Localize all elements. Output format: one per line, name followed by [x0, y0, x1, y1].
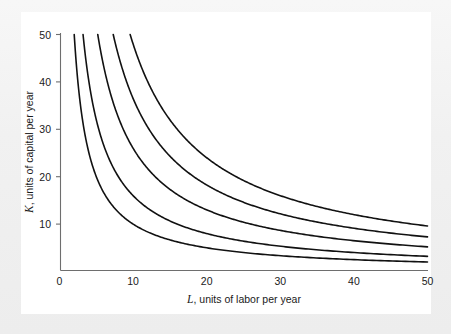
- isoquant-chart: 50 40 30 20 10 0 10 20 30 40 50 L, units…: [0, 0, 451, 334]
- isoquant-curve-3: [98, 35, 428, 247]
- figure-root: 50 40 30 20 10 0 10 20 30 40 50 L, units…: [0, 0, 451, 334]
- y-axis-title-text: , units of capital per year: [23, 90, 35, 205]
- y-tick-label-10: 10: [39, 218, 51, 230]
- isoquant-curve-2: [83, 35, 427, 257]
- isoquant-curve-1: [74, 35, 427, 263]
- x-tick-label-20: 20: [201, 275, 213, 287]
- x-tick-label-40: 40: [348, 275, 360, 287]
- x-tick-label-0: 0: [57, 275, 63, 287]
- x-axis-title: L, units of labor per year: [186, 293, 301, 305]
- x-tick-label-10: 10: [127, 275, 139, 287]
- y-tick-label-40: 40: [39, 76, 51, 88]
- axes: [61, 33, 429, 271]
- y-tick-label-20: 20: [39, 171, 51, 183]
- y-tick-marks: [56, 35, 61, 225]
- x-tick-label-30: 30: [274, 275, 286, 287]
- svg-text:L, units of labor per year: L, units of labor per year: [186, 293, 301, 305]
- y-tick-label-50: 50: [39, 29, 51, 41]
- y-axis-title: K, units of capital per year: [23, 90, 35, 214]
- isoquant-curves: [74, 35, 427, 263]
- isoquant-curve-4: [113, 35, 427, 237]
- x-tick-label-50: 50: [422, 275, 434, 287]
- x-tick-labels: 0 10 20 30 40 50: [57, 275, 434, 287]
- x-axis-title-symbol: L: [186, 293, 193, 305]
- x-axis-title-text: , units of labor per year: [194, 293, 302, 305]
- y-tick-label-30: 30: [39, 123, 51, 135]
- svg-text:K, units of capital per year: K, units of capital per year: [23, 90, 35, 214]
- y-tick-labels: 50 40 30 20 10: [39, 29, 51, 231]
- isoquant-curve-5: [130, 35, 427, 227]
